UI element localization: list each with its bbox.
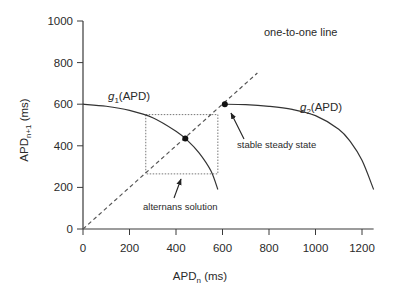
stable-steady-state-point <box>222 101 228 107</box>
y-tick-label: 200 <box>54 181 73 193</box>
g1-label: g1(APD) <box>108 90 150 105</box>
y-axis-title: APDn+1 (ms) <box>18 98 33 162</box>
x-tick-label: 400 <box>166 242 185 254</box>
x-tick-label: 1000 <box>303 242 329 254</box>
x-tick-label: 800 <box>259 242 278 254</box>
x-tick-label: 200 <box>120 242 139 254</box>
y-tick-label: 1000 <box>47 15 73 27</box>
alternans-solution-label: alternans solution <box>143 201 217 212</box>
alternans-fixed-point-point <box>182 136 188 142</box>
axes: 02004006008001000120002004006008001000 <box>47 15 374 254</box>
g2-label: g2(APD) <box>300 101 342 116</box>
apd-restitution-chart: 02004006008001000120002004006008001000 A… <box>0 0 396 296</box>
y-tick-label: 600 <box>54 98 73 110</box>
series-g1-apd <box>83 104 218 189</box>
y-tick-label: 400 <box>54 140 73 152</box>
x-tick-label: 600 <box>213 242 232 254</box>
alternans-solution-arrow <box>174 179 181 198</box>
x-tick-label: 1200 <box>349 242 375 254</box>
one-to-one-line-label: one-to-one line <box>264 26 337 38</box>
y-tick-label: 800 <box>54 57 73 69</box>
x-tick-label: 0 <box>80 242 86 254</box>
x-axis-title: APDn (ms) <box>173 270 227 285</box>
y-tick-label: 0 <box>67 223 73 235</box>
stable-steady-state-arrow <box>231 113 244 139</box>
stable-steady-state-label: stable steady state <box>237 139 316 150</box>
